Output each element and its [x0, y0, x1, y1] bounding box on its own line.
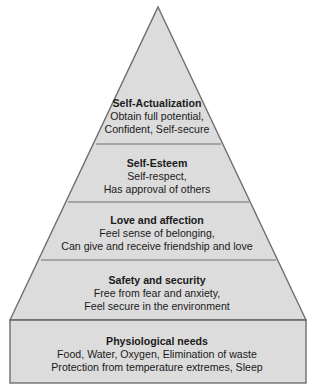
tier-line: Protection from temperature extremes, Sl…	[0, 361, 314, 374]
tier-line: Food, Water, Oxygen, Elimination of wast…	[0, 348, 314, 361]
tier-title: Safety and security	[0, 274, 314, 287]
tier-line: Obtain full potential,	[0, 110, 314, 123]
tier-self-actualization: Self-Actualization Obtain full potential…	[0, 97, 314, 136]
tier-title: Physiological needs	[0, 335, 314, 348]
tier-line: Has approval of others	[0, 183, 314, 196]
tier-line: Feel sense of belonging,	[0, 227, 314, 240]
tier-line: Can give and receive friendship and love	[0, 240, 314, 253]
tier-safety-and-security: Safety and security Free from fear and a…	[0, 274, 314, 313]
tier-title: Love and affection	[0, 214, 314, 227]
tier-line: Self-respect,	[0, 170, 314, 183]
tier-line: Feel secure in the environment	[0, 300, 314, 313]
tier-physiological-needs: Physiological needs Food, Water, Oxygen,…	[0, 335, 314, 374]
tier-title: Self-Esteem	[0, 157, 314, 170]
tier-line: Free from fear and anxiety,	[0, 287, 314, 300]
tier-self-esteem: Self-Esteem Self-respect, Has approval o…	[0, 157, 314, 196]
tier-line: Confident, Self-secure	[0, 123, 314, 136]
tier-love-and-affection: Love and affection Feel sense of belongi…	[0, 214, 314, 253]
tier-title: Self-Actualization	[0, 97, 314, 110]
pyramid-diagram	[0, 0, 314, 392]
